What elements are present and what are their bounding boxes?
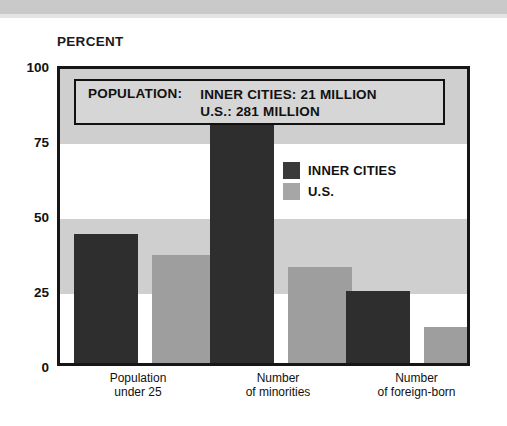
- y-tick-25: 25: [1, 285, 49, 300]
- bar-inner-cities-number-of-minorities: [210, 112, 274, 363]
- x-category-line1: Population: [110, 371, 167, 385]
- y-tick-50: 50: [1, 210, 49, 225]
- bar-us-number-of-minorities: [288, 267, 352, 363]
- legend-swatch-icon-inner-cities: [283, 162, 300, 179]
- y-tick-0: 0: [1, 360, 49, 375]
- bar-us-number-of-foreign-born: [424, 327, 467, 363]
- legend-label-us: U.S.: [308, 184, 334, 199]
- legend-swatch-icon-us: [283, 183, 300, 200]
- x-category-number-of-foreign-born: Number of foreign-born: [339, 371, 494, 399]
- x-category-line2: of foreign-born: [339, 385, 494, 399]
- x-category-number-of-minorities: Number of minorities: [203, 371, 353, 399]
- legend-item-us: U.S.: [283, 183, 396, 200]
- population-annotation-box: POPULATION: INNER CITIES: 21 MILLION U.S…: [74, 79, 445, 125]
- plot-area: POPULATION: INNER CITIES: 21 MILLION U.S…: [57, 66, 470, 366]
- y-tick-75: 75: [1, 135, 49, 150]
- y-tick-100: 100: [1, 60, 49, 75]
- legend-item-inner-cities: INNER CITIES: [283, 162, 396, 179]
- annotation-line-inner-cities: INNER CITIES: 21 MILLION: [200, 86, 377, 103]
- legend: INNER CITIES U.S.: [283, 162, 396, 204]
- y-axis-ticks: 100 75 50 25 0: [0, 60, 53, 375]
- x-category-line2: under 25: [63, 385, 213, 399]
- x-axis-categories: Population under 25 Number of minorities…: [57, 371, 470, 415]
- x-category-line2: of minorities: [203, 385, 353, 399]
- bar-us-population-under-25: [152, 255, 216, 363]
- bar-chart-figure: PERCENT 100 75 50 25 0 POPULATION: INNER…: [0, 0, 507, 426]
- y-axis-title: PERCENT: [57, 34, 124, 49]
- bar-inner-cities-population-under-25: [74, 234, 138, 363]
- legend-label-inner-cities: INNER CITIES: [308, 163, 396, 178]
- x-category-population-under-25: Population under 25: [63, 371, 213, 399]
- x-category-line1: Number: [257, 371, 300, 385]
- x-category-line1: Number: [395, 371, 438, 385]
- annotation-title: POPULATION:: [88, 86, 182, 101]
- annotation-line-us: U.S.: 281 MILLION: [200, 103, 377, 120]
- bar-inner-cities-number-of-foreign-born: [346, 291, 410, 363]
